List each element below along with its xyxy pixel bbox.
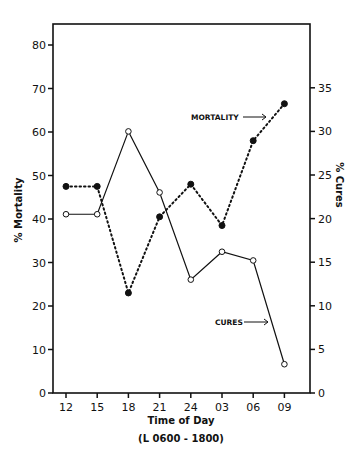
data-point-cures	[63, 211, 69, 217]
data-point-mortality	[125, 290, 131, 296]
x-tick-label: 03	[215, 401, 229, 414]
left-tick-label: 40	[32, 213, 46, 226]
x-tick-label: 12	[59, 401, 73, 414]
data-point-mortality	[157, 214, 163, 220]
right-tick-label: 5	[318, 343, 325, 356]
data-point-cures	[126, 129, 132, 135]
x-tick-label: 09	[277, 401, 291, 414]
data-point-mortality	[94, 183, 100, 189]
data-point-cures	[250, 258, 256, 264]
right-tick-label: 35	[318, 82, 332, 95]
data-point-mortality	[281, 101, 287, 107]
data-point-cures	[282, 361, 288, 367]
x-tick-label: 21	[153, 401, 167, 414]
x-tick-label: 24	[184, 401, 198, 414]
x-axis-sublabel: (L 0600 - 1800)	[138, 433, 224, 444]
series-line-cures	[66, 131, 284, 364]
data-point-mortality	[63, 183, 69, 189]
x-tick-label: 06	[246, 401, 260, 414]
y-axis-label-left: % Mortality	[13, 177, 24, 242]
right-tick-label: 15	[318, 256, 332, 269]
left-tick-label: 30	[32, 257, 46, 270]
plot-border	[53, 24, 310, 393]
left-tick-label: 80	[32, 39, 46, 52]
data-point-mortality	[219, 223, 225, 229]
x-tick-label: 15	[90, 401, 104, 414]
right-tick-label: 25	[318, 169, 332, 182]
data-point-cures	[94, 211, 100, 217]
x-tick-label: 18	[121, 401, 135, 414]
plot-frame	[53, 24, 310, 393]
left-tick-label: 60	[32, 126, 46, 139]
left-tick-label: 10	[32, 344, 46, 357]
left-tick-label: 0	[39, 387, 46, 400]
left-tick-label: 20	[32, 300, 46, 313]
series-line-mortality	[66, 104, 284, 293]
left-y-axis: 01020304050607080	[32, 39, 53, 400]
cures-annotation: CURES	[215, 318, 243, 327]
data-point-mortality	[188, 181, 194, 187]
data-point-cures	[157, 190, 163, 196]
right-tick-label: 10	[318, 300, 332, 313]
right-tick-label: 20	[318, 213, 332, 226]
data-series	[63, 101, 287, 367]
x-axis: 1215182124030609	[59, 393, 291, 414]
dual-axis-line-chart: 01020304050607080 05101520253035 1215182…	[0, 0, 363, 459]
data-point-cures	[188, 277, 194, 283]
data-point-mortality	[250, 138, 256, 144]
left-tick-label: 70	[32, 83, 46, 96]
mortality-annotation: MORTALITY	[191, 113, 239, 122]
right-tick-label: 0	[318, 387, 325, 400]
right-tick-label: 30	[318, 125, 332, 138]
left-tick-label: 50	[32, 170, 46, 183]
x-axis-label: Time of Day	[148, 415, 215, 426]
right-y-axis: 05101520253035	[310, 82, 332, 400]
annotations: MORTALITYCURES	[191, 113, 268, 327]
data-point-cures	[219, 249, 225, 255]
y-axis-label-right: % Cures	[334, 162, 345, 208]
